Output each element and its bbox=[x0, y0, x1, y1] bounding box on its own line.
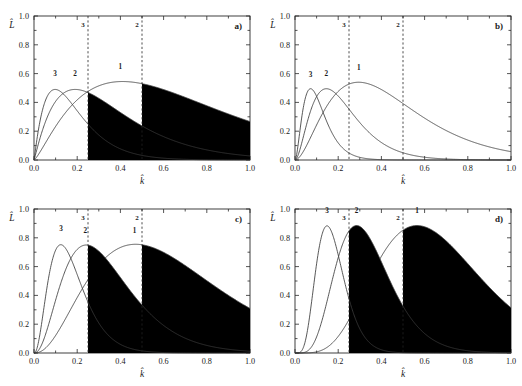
x-axis-title: k̂ bbox=[401, 174, 406, 186]
curve-label-1: 1 bbox=[415, 207, 419, 215]
y-tick-label: 0.4 bbox=[19, 291, 29, 300]
curve-label-3: 3 bbox=[53, 70, 57, 78]
x-tick-label: 0.6 bbox=[158, 164, 168, 173]
x-tick-label: 0.4 bbox=[115, 164, 125, 173]
y-tick-label: 0.8 bbox=[280, 41, 290, 50]
y-axis-title: L̂ bbox=[269, 211, 275, 223]
y-axis-title: L̂ bbox=[8, 211, 14, 223]
x-tick-label: 0.6 bbox=[419, 357, 429, 366]
panel-label: d) bbox=[495, 214, 503, 224]
chart-panel-b: 0.00.20.40.60.81.00.00.20.40.60.81.0k̂L̂… bbox=[261, 0, 522, 193]
x-tick-label: 0.4 bbox=[376, 357, 386, 366]
curve-label-3: 3 bbox=[309, 71, 313, 79]
x-tick-label: 1.0 bbox=[245, 164, 255, 173]
x-tick-label: 1.0 bbox=[245, 357, 255, 366]
threshold-label-3: 3 bbox=[342, 214, 346, 222]
figure-canvas: 0.00.20.40.60.81.00.00.20.40.60.81.0k̂L̂… bbox=[0, 0, 522, 386]
chart-panel-c: 0.00.20.40.60.81.00.00.20.40.60.81.0k̂L̂… bbox=[0, 193, 261, 386]
curve-label-2: 2 bbox=[73, 70, 77, 78]
x-tick-label: 1.0 bbox=[506, 357, 516, 366]
y-axis-title: L̂ bbox=[8, 18, 14, 30]
panel-label: a) bbox=[235, 21, 243, 31]
chart-panel-d: 0.00.20.40.60.81.00.00.20.40.60.81.0k̂L̂… bbox=[261, 193, 522, 386]
curve-label-2: 2 bbox=[355, 207, 359, 215]
y-tick-label: 0.0 bbox=[280, 156, 290, 165]
y-tick-label: 0.0 bbox=[280, 349, 290, 358]
threshold-label-2: 2 bbox=[396, 21, 400, 29]
y-tick-label: 0.8 bbox=[19, 41, 29, 50]
threshold-label-3: 3 bbox=[81, 21, 85, 29]
x-tick-label: 0.2 bbox=[333, 357, 343, 366]
x-tick-label: 0.2 bbox=[72, 357, 82, 366]
y-tick-label: 1.0 bbox=[280, 12, 290, 21]
x-tick-label: 0.8 bbox=[202, 164, 212, 173]
x-tick-label: 0.8 bbox=[463, 164, 473, 173]
y-tick-label: 1.0 bbox=[280, 205, 290, 214]
x-tick-label: 0.6 bbox=[158, 357, 168, 366]
y-tick-label: 0.0 bbox=[19, 156, 29, 165]
y-tick-label: 0.6 bbox=[280, 70, 290, 79]
x-tick-label: 0.8 bbox=[463, 357, 473, 366]
x-tick-label: 0.4 bbox=[115, 357, 125, 366]
x-tick-label: 0.0 bbox=[29, 164, 39, 173]
x-tick-label: 0.2 bbox=[333, 164, 343, 173]
y-tick-label: 0.6 bbox=[19, 70, 29, 79]
chart-panel-a: 0.00.20.40.60.81.00.00.20.40.60.81.0k̂L̂… bbox=[0, 0, 261, 193]
y-tick-label: 1.0 bbox=[19, 205, 29, 214]
y-tick-label: 0.8 bbox=[19, 234, 29, 243]
y-tick-label: 0.4 bbox=[19, 98, 29, 107]
x-tick-label: 0.2 bbox=[72, 164, 82, 173]
y-tick-label: 0.2 bbox=[19, 320, 29, 329]
threshold-label-2: 2 bbox=[396, 214, 400, 222]
curve-label-3: 3 bbox=[325, 207, 329, 215]
curve-label-2: 2 bbox=[325, 70, 329, 78]
y-axis-title: L̂ bbox=[269, 18, 275, 30]
x-tick-label: 1.0 bbox=[506, 164, 516, 173]
x-axis-title: k̂ bbox=[140, 174, 145, 186]
y-tick-label: 0.4 bbox=[280, 98, 290, 107]
y-tick-label: 0.2 bbox=[19, 127, 29, 136]
threshold-label-3: 3 bbox=[81, 214, 85, 222]
y-tick-label: 0.2 bbox=[280, 127, 290, 136]
curve-label-1: 1 bbox=[119, 63, 123, 71]
x-axis-title: k̂ bbox=[401, 367, 406, 379]
x-tick-label: 0.8 bbox=[202, 357, 212, 366]
x-tick-label: 0.0 bbox=[29, 357, 39, 366]
x-tick-label: 0.0 bbox=[290, 357, 300, 366]
x-axis-title: k̂ bbox=[140, 367, 145, 379]
x-tick-label: 0.0 bbox=[290, 164, 300, 173]
y-tick-label: 0.8 bbox=[280, 234, 290, 243]
y-tick-label: 0.0 bbox=[19, 349, 29, 358]
y-tick-label: 0.2 bbox=[280, 320, 290, 329]
y-tick-label: 0.6 bbox=[19, 263, 29, 272]
curve-label-2: 2 bbox=[84, 227, 88, 235]
panel-label: c) bbox=[235, 214, 242, 224]
curve-label-3: 3 bbox=[59, 225, 63, 233]
threshold-label-2: 2 bbox=[135, 214, 139, 222]
x-tick-label: 0.4 bbox=[376, 164, 386, 173]
y-tick-label: 0.6 bbox=[280, 263, 290, 272]
x-tick-label: 0.6 bbox=[419, 164, 429, 173]
threshold-label-3: 3 bbox=[342, 21, 346, 29]
y-tick-label: 0.4 bbox=[280, 291, 290, 300]
curve-label-1: 1 bbox=[357, 64, 361, 72]
panel-label: b) bbox=[495, 21, 503, 31]
y-tick-label: 1.0 bbox=[19, 12, 29, 21]
curve-label-1: 1 bbox=[133, 227, 137, 235]
threshold-label-2: 2 bbox=[135, 21, 139, 29]
